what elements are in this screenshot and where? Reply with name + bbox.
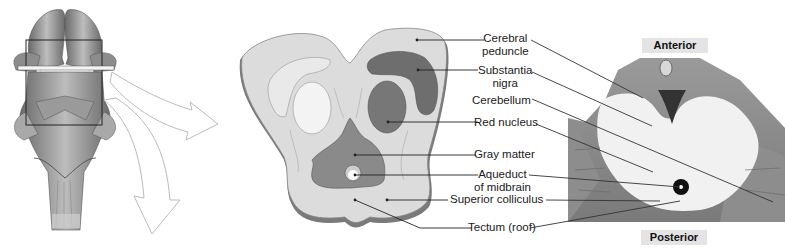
label-aqueduct-of-midbrain: Aqueduct of midbrain bbox=[474, 168, 531, 194]
label-superior-colliculus: Superior colliculus bbox=[450, 193, 543, 206]
label-gray-matter: Gray matter bbox=[474, 148, 535, 161]
label-cerebral-peduncle: Cerebral peduncle bbox=[482, 32, 529, 58]
orientation-posterior: Posterior bbox=[641, 230, 707, 245]
orientation-anterior: Anterior bbox=[642, 38, 708, 53]
label-substantia-nigra: Substantia nigra bbox=[478, 64, 532, 90]
label-cerebellum: Cerebellum bbox=[472, 94, 531, 107]
label-tectum: Tectum (roof) bbox=[468, 221, 536, 234]
label-red-nucleus: Red nucleus bbox=[474, 116, 538, 129]
